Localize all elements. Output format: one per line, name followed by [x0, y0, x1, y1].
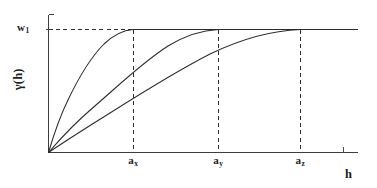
x-tick-label-az: az	[295, 155, 304, 166]
y-axis-label: γ(h)	[12, 52, 25, 106]
variogram-curve-ax	[49, 30, 134, 153]
variogram-curve-az	[49, 30, 301, 153]
x-tick-label-ay: ay	[213, 155, 223, 166]
x-axis-label: h	[345, 168, 352, 181]
sill-axis-label: w1	[17, 22, 29, 33]
variogram-plot-canvas	[0, 0, 377, 188]
x-tick-label-ax: ax	[128, 155, 138, 166]
variogram-figure: w1 γ(h) h ax ay az	[0, 0, 377, 188]
